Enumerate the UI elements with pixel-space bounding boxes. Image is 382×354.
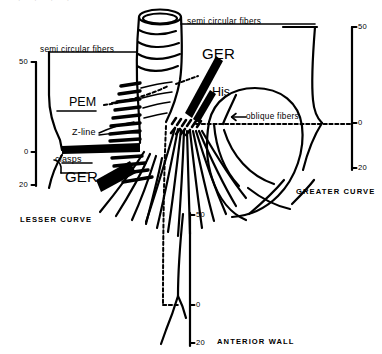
- lesser-curve-outline: [49, 52, 62, 188]
- label-oblique-fibers: oblique fibers: [246, 113, 299, 121]
- left-scale-tick-50: 50: [19, 58, 28, 66]
- label-ger-top: GER: [202, 46, 235, 61]
- anterior-wall-outline: [161, 214, 186, 344]
- bottom-scale-tick-50: 50: [196, 211, 205, 219]
- right-scale-tick-50: 50: [358, 23, 367, 31]
- left-scale-tick-20: 20: [19, 181, 28, 189]
- left-scale-tick-0: 0: [24, 148, 28, 156]
- esophagus-tube: [137, 10, 182, 144]
- label-clasps: clasps: [55, 155, 82, 164]
- sling-fiber-fan: [146, 128, 246, 236]
- esophageal-circular-fibers: [137, 30, 180, 71]
- bottom-scale-tick-0: 0: [196, 301, 200, 309]
- right-scale-tick-0: 0: [358, 119, 362, 127]
- label-ger-bottom: GER: [65, 169, 98, 184]
- oblique-fibers-arrow: [232, 114, 246, 121]
- figure-canvas: · · · ·: [0, 0, 382, 354]
- bottom-scale-tick-20: 20: [196, 339, 205, 347]
- pem-dash-tail: [104, 103, 117, 105]
- label-greater-curve: GREATER CURVE: [296, 188, 375, 196]
- clasp-band: [62, 143, 140, 154]
- label-z-line: Z-line: [72, 128, 96, 137]
- label-semi-circular-fibers-left: semi circular fibers: [40, 46, 114, 54]
- label-pem: PEM: [69, 96, 96, 109]
- label-semi-circular-fibers-top: semi circular fibers: [187, 18, 261, 26]
- right-scale-tick-20: 20: [358, 164, 367, 172]
- right-scale-axis: [352, 27, 357, 170]
- label-his: His: [212, 86, 230, 99]
- left-scale-axis: [32, 62, 37, 186]
- label-anterior-wall: ANTERIOR WALL: [217, 338, 295, 346]
- label-lesser-curve: LESSER CURVE: [20, 216, 92, 224]
